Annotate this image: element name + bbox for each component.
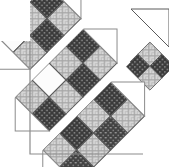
quilt-illustration: Diagonal Strip Quilt Block <box>0 0 169 167</box>
quilt-pattern-canvas <box>0 0 169 167</box>
